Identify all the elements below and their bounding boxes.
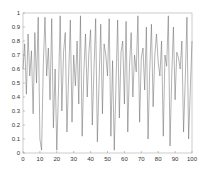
y-tick-label: 0.7 (12, 52, 21, 58)
x-tick-label: 100 (187, 156, 198, 162)
line-chart: 00.10.20.30.40.50.60.70.80.91 0102030405… (0, 0, 205, 180)
x-tick-label: 0 (21, 156, 25, 162)
y-tick-label: 0.5 (12, 80, 21, 86)
y-tick-label: 0 (17, 150, 21, 156)
y-tick-label: 0.2 (12, 122, 21, 128)
x-tick-label: 20 (53, 156, 60, 162)
x-tick-label: 30 (70, 156, 77, 162)
y-tick-label: 0.9 (12, 24, 21, 30)
y-tick-label: 0.8 (12, 38, 21, 44)
y-tick-label: 0.4 (12, 94, 21, 100)
x-tick-label: 90 (172, 156, 179, 162)
x-tick-label: 50 (104, 156, 111, 162)
x-tick-label: 70 (138, 156, 145, 162)
y-tick-label: 1 (17, 10, 21, 16)
plot-area (23, 13, 192, 153)
x-tick-label: 10 (37, 156, 44, 162)
y-tick-label: 0.3 (12, 108, 21, 114)
x-tick-label: 80 (155, 156, 162, 162)
y-tick-label: 0.1 (12, 136, 21, 142)
y-tick-label: 0.6 (12, 66, 21, 72)
x-tick-label: 60 (121, 156, 128, 162)
x-tick-label: 40 (87, 156, 94, 162)
